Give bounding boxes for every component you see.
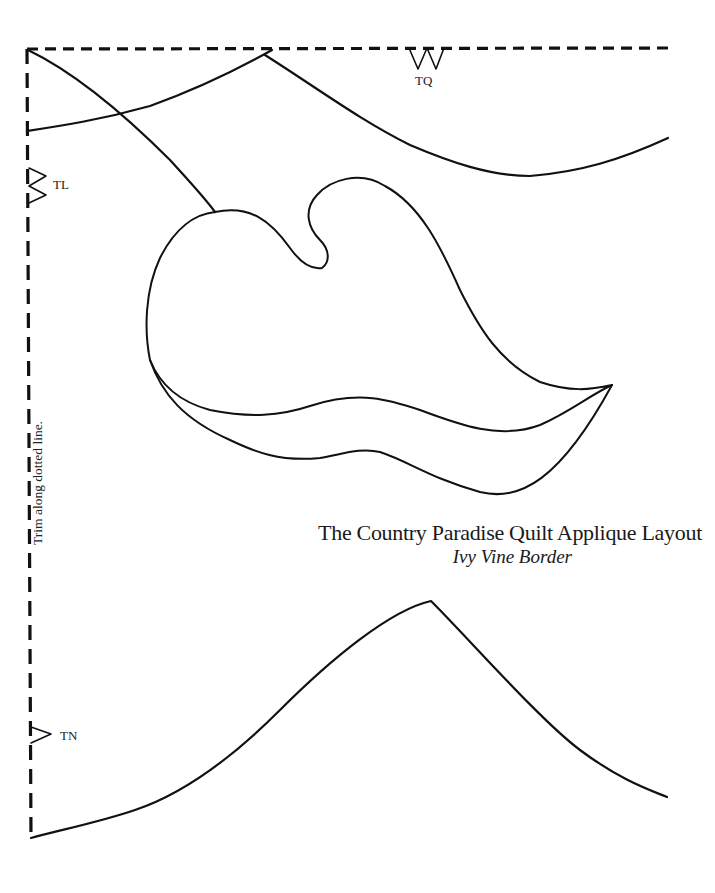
trim-line-top xyxy=(27,48,668,49)
tn-notch-mark xyxy=(31,727,51,743)
border-scallop-peak xyxy=(31,601,667,838)
tl-notch-mark xyxy=(29,168,46,203)
tl-label: TL xyxy=(53,177,69,193)
vine-border-curve xyxy=(265,55,668,176)
page-subtitle: Ivy Vine Border xyxy=(226,546,572,568)
trim-instruction: Trim along dotted line. xyxy=(30,421,46,545)
applique-pattern-drawing xyxy=(0,0,715,893)
vine-stem-upper xyxy=(27,50,272,131)
tn-label: TN xyxy=(60,728,77,744)
page-title: The Country Paradise Quilt Applique Layo… xyxy=(226,521,702,545)
ivy-leaf-shadow-outline xyxy=(150,360,612,494)
tq-notch-mark xyxy=(409,48,444,69)
ivy-leaf-outline xyxy=(147,178,612,431)
tq-label: TQ xyxy=(415,73,432,89)
